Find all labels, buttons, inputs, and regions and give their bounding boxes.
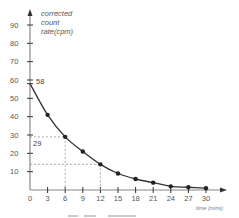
- y-tick-label: 20: [10, 149, 18, 158]
- data-point-marker: [186, 185, 190, 189]
- x-axis-arrow-icon: [220, 188, 227, 193]
- decay-chart: 102030405060708090036912151821242730 cor…: [0, 0, 239, 218]
- y-tick-label: 60: [10, 76, 18, 85]
- y-tick-label: 50: [10, 94, 18, 103]
- data-point-marker: [204, 186, 208, 190]
- x-tick-label: 24: [167, 194, 175, 203]
- x-tick-label: 12: [96, 194, 104, 203]
- annotation-29: 29: [33, 139, 41, 148]
- x-tick-label: 18: [131, 194, 139, 203]
- data-point-marker: [63, 135, 67, 139]
- y-axis-label-line-2: count: [41, 18, 60, 27]
- y-tick-label: 70: [10, 57, 18, 66]
- y-axis-arrow-icon: [28, 9, 33, 16]
- x-axis-label: time (mins): [196, 205, 223, 211]
- x-tick-label: 15: [114, 194, 122, 203]
- y-axis-label-line-1: corrected: [41, 9, 73, 18]
- x-tick-label: 6: [63, 194, 67, 203]
- y-tick-label: 80: [10, 39, 18, 48]
- axis-labels: corrected count rate(cpm) time (mins) 58…: [33, 9, 223, 211]
- data-point-marker: [98, 162, 102, 166]
- x-tick-label: 21: [149, 194, 157, 203]
- annotation-58: 58: [36, 77, 44, 86]
- data-point-marker: [133, 177, 137, 181]
- data-point-marker: [116, 171, 120, 175]
- x-tick-label: 3: [46, 194, 50, 203]
- data-point-marker: [81, 149, 85, 153]
- x-tick-label: 9: [81, 194, 85, 203]
- y-tick-label: 40: [10, 112, 18, 121]
- y-tick-label: 90: [10, 21, 18, 30]
- x-tick-label: 30: [202, 194, 210, 203]
- y-axis-label-line-3: rate(cpm): [41, 27, 74, 36]
- x-tick-label: 0: [28, 194, 32, 203]
- data-point-marker: [169, 184, 173, 188]
- data-point-marker: [151, 180, 155, 184]
- y-tick-label: 10: [10, 167, 18, 176]
- y-tick-label: 30: [10, 131, 18, 140]
- x-tick-label: 27: [184, 194, 192, 203]
- data-point-marker: [45, 113, 49, 117]
